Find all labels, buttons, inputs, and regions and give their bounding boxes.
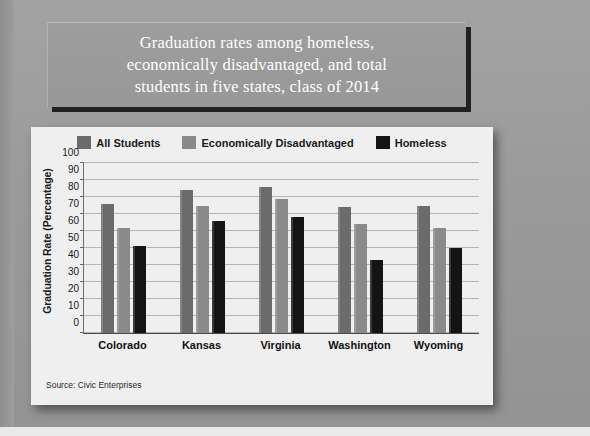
bar-group [180,163,225,333]
legend-swatch-icon [77,136,91,149]
bar[interactable] [101,204,114,333]
bar[interactable] [291,217,304,333]
bar-group [417,163,462,333]
x-axis-label: Wyoming [399,339,478,351]
y-tick-label: 30 [68,266,79,277]
chart-card: All StudentsEconomically DisadvantagedHo… [31,127,493,405]
y-tick-label: 20 [68,283,79,294]
y-tick-label: 60 [68,215,79,226]
bar[interactable] [370,260,383,333]
x-axis-labels: ColoradoKansasVirginiaWashingtonWyoming [83,339,478,351]
source-note: Source: Civic Enterprises [46,380,141,390]
bar-group [338,163,383,333]
legend-item-label: All Students [96,137,160,149]
x-axis-label: Virginia [241,339,320,351]
legend-item[interactable]: All Students [77,136,160,149]
bar[interactable] [259,187,272,333]
bar[interactable] [433,228,446,333]
y-axis-title: Graduation Rate (Percentage) [41,161,53,321]
legend-item[interactable]: Economically Disadvantaged [182,136,353,149]
bar[interactable] [180,190,193,333]
bar[interactable] [449,248,462,333]
y-tick-label: 10 [68,300,79,311]
bar[interactable] [417,206,430,334]
y-tick-label: 50 [68,232,79,243]
plot-area: 1009080706050403020100 [83,163,479,334]
slide-left-edge [0,0,14,436]
slide-bottom-strip [0,427,590,436]
legend-swatch-icon [376,136,390,149]
slide-background: Graduation rates among homeless, economi… [0,0,590,436]
title-plaque: Graduation rates among homeless, economi… [47,22,466,107]
y-tick-label: 40 [68,249,79,260]
bar[interactable] [212,221,225,333]
x-axis-label: Colorado [83,339,162,351]
plot-wrapper: Graduation Rate (Percentage) 10090807060… [31,157,493,372]
y-tick-label: 80 [68,181,79,192]
legend-swatch-icon [182,136,196,149]
bar-group [259,163,304,333]
x-axis-label: Kansas [162,339,241,351]
bar[interactable] [275,199,288,333]
chart-legend: All StudentsEconomically DisadvantagedHo… [31,136,493,149]
legend-item-label: Homeless [395,137,447,149]
y-tick-label: 0 [73,317,79,328]
legend-item[interactable]: Homeless [376,136,447,149]
bar[interactable] [117,228,130,333]
x-axis-label: Washington [320,339,399,351]
y-tick-label: 70 [68,198,79,209]
bar[interactable] [196,206,209,334]
y-tick-label: 90 [68,164,79,175]
bar-group [101,163,146,333]
bar[interactable] [338,207,351,333]
legend-item-label: Economically Disadvantaged [201,137,353,149]
bar-groups [84,163,479,333]
bar[interactable] [354,224,367,333]
page-title: Graduation rates among homeless, economi… [117,32,397,98]
bar[interactable] [133,246,146,333]
y-tick-label: 100 [62,147,79,158]
